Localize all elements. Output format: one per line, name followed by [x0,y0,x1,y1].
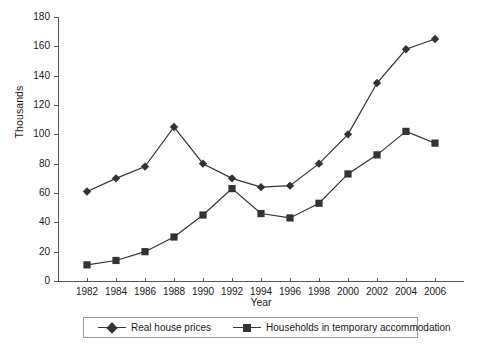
square-marker-icon [199,211,206,218]
square-marker-icon [170,233,177,240]
diamond-marker-icon [112,174,120,182]
square-marker-icon [228,185,235,192]
chart-legend: Real house pricesHouseholds in temporary… [83,317,418,338]
series-2 [83,128,438,269]
legend-swatch [233,323,261,333]
legend-label: Households in temporary accommodation [266,322,451,333]
square-marker-icon [243,324,251,332]
square-marker-icon [373,151,380,158]
square-marker-icon [257,210,264,217]
square-marker-icon [83,261,90,268]
diamond-marker-icon [228,174,236,182]
legend-item-2[interactable]: Households in temporary accommodation [233,322,451,333]
square-marker-icon [141,248,148,255]
square-marker-icon [112,257,119,264]
legend-item-1[interactable]: Real house prices [98,322,211,333]
diamond-marker-icon [106,322,117,333]
series-line [87,39,435,192]
square-marker-icon [286,214,293,221]
line-chart: Thousands 020406080100120140160180 19821… [0,0,477,349]
series-line [87,131,435,264]
diamond-marker-icon [141,162,149,170]
square-marker-icon [431,140,438,147]
legend-label: Real house prices [131,322,211,333]
square-marker-icon [315,200,322,207]
series-1 [83,35,439,196]
diamond-marker-icon [83,187,91,195]
diamond-marker-icon [431,35,439,43]
diamond-marker-icon [257,183,265,191]
x-axis-title: Year [231,296,291,308]
square-marker-icon [402,128,409,135]
legend-swatch [98,323,126,333]
square-marker-icon [344,170,351,177]
